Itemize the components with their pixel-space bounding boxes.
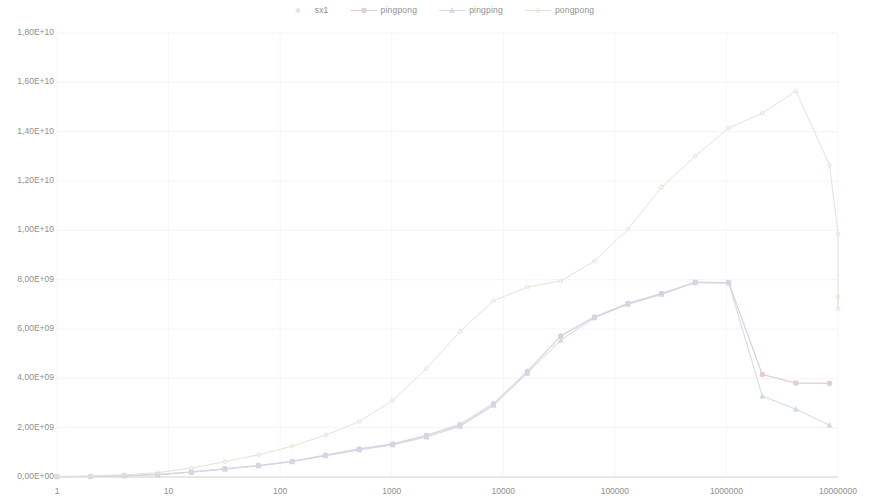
chart-root: sx1pingpongpingpingpongpong 1,80E+101,60… bbox=[0, 0, 879, 503]
x-axis-tick-label: 1000000 bbox=[710, 486, 743, 496]
x-axis-tick-label: 100000 bbox=[601, 486, 629, 496]
x-axis-tick-label: 100 bbox=[273, 486, 287, 496]
x-axis-labels: 110100100010000100000100000010000000 bbox=[0, 0, 879, 503]
x-axis-tick-label: 10000 bbox=[491, 486, 515, 496]
x-axis-tick-label: 10000000 bbox=[819, 486, 857, 496]
x-axis-tick-label: 1 bbox=[55, 486, 60, 496]
x-axis-tick-label: 1000 bbox=[382, 486, 401, 496]
x-axis-tick-label: 10 bbox=[164, 486, 173, 496]
